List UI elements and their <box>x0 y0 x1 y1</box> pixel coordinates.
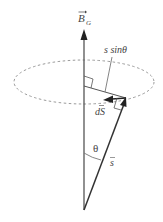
field-label-subscript: G <box>86 19 91 27</box>
angle-arc <box>84 153 101 160</box>
perp-distance-leader <box>105 57 112 92</box>
field-label-text: B <box>78 12 85 24</box>
perp-distance-label: s sinθ <box>104 44 127 55</box>
line-element-vector <box>112 98 126 99</box>
angle-label: θ <box>93 142 98 154</box>
right-angle-marker-tip <box>114 98 121 110</box>
position-vector-label: s <box>110 157 114 168</box>
line-element-arrow-head-icon <box>103 96 113 104</box>
line-element-label: dS <box>95 106 105 117</box>
diagram-canvas: B G s sinθ dS θ s <box>0 0 163 222</box>
position-vector <box>84 104 124 210</box>
field-arrow-head-icon <box>81 29 88 40</box>
field-label: B G <box>78 11 91 28</box>
